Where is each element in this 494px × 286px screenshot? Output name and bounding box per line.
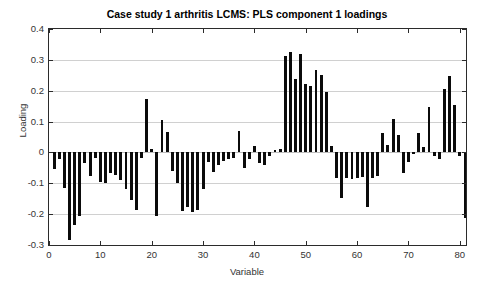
bar xyxy=(202,152,205,189)
x-tick-mark xyxy=(460,241,461,245)
x-tick-mark xyxy=(49,241,50,245)
x-tick-mark xyxy=(254,241,255,245)
bar xyxy=(443,89,446,152)
bar xyxy=(83,152,86,163)
y-tick-mark xyxy=(49,60,53,61)
bar xyxy=(309,86,312,152)
bar xyxy=(397,135,400,152)
x-tick-label: 20 xyxy=(132,250,172,260)
y-tick-mark-right xyxy=(462,152,466,153)
x-tick-mark xyxy=(357,241,358,245)
bar xyxy=(376,152,379,176)
bar xyxy=(412,152,415,154)
x-tick-mark-top xyxy=(460,29,461,33)
bar xyxy=(243,152,246,167)
y-tick-mark-right xyxy=(462,122,466,123)
bar xyxy=(53,152,56,169)
bar xyxy=(268,152,271,156)
bar xyxy=(284,56,287,152)
bar xyxy=(171,152,174,171)
bar xyxy=(263,152,266,165)
bar xyxy=(140,152,143,158)
bar xyxy=(279,149,282,153)
bar xyxy=(135,152,138,209)
bar xyxy=(238,131,241,152)
bar-series xyxy=(49,29,466,245)
x-tick-mark-top xyxy=(49,29,50,33)
bar xyxy=(356,152,359,177)
bar xyxy=(181,152,184,211)
x-tick-label: 70 xyxy=(388,250,428,260)
y-tick-label: -0.1 xyxy=(4,178,44,188)
x-tick-mark xyxy=(306,241,307,245)
x-tick-label: 50 xyxy=(286,250,326,260)
bar xyxy=(381,133,384,152)
bar xyxy=(315,70,318,153)
y-tick-label: 0.2 xyxy=(4,86,44,96)
bar xyxy=(402,152,405,173)
x-tick-mark xyxy=(100,241,101,245)
y-tick-label: 0.3 xyxy=(4,55,44,65)
bar xyxy=(258,152,261,163)
bar xyxy=(422,147,425,153)
x-tick-label: 0 xyxy=(29,250,69,260)
x-tick-mark-top xyxy=(408,29,409,33)
bar xyxy=(125,152,128,189)
y-tick-mark xyxy=(49,183,53,184)
bar xyxy=(345,152,348,177)
bar xyxy=(212,152,215,171)
bar xyxy=(191,152,194,211)
y-tick-label: -0.2 xyxy=(4,209,44,219)
bar xyxy=(99,152,102,181)
bar xyxy=(78,152,81,215)
x-tick-label: 30 xyxy=(183,250,223,260)
x-tick-label: 60 xyxy=(337,250,377,260)
x-tick-mark-top xyxy=(357,29,358,33)
bar xyxy=(289,52,292,152)
bar xyxy=(114,152,117,174)
x-tick-mark-top xyxy=(203,29,204,33)
bar xyxy=(351,152,354,178)
chart-figure: Case study 1 arthritis LCMS: PLS compone… xyxy=(0,0,494,286)
x-tick-label: 40 xyxy=(234,250,274,260)
x-tick-mark xyxy=(203,241,204,245)
bar xyxy=(392,119,395,152)
y-tick-mark-right xyxy=(462,214,466,215)
bar xyxy=(335,152,338,177)
y-tick-mark-right xyxy=(462,29,466,30)
x-tick-mark-top xyxy=(100,29,101,33)
y-tick-label: 0 xyxy=(4,147,44,157)
bar xyxy=(453,105,456,153)
bar xyxy=(253,146,256,152)
y-tick-mark-right xyxy=(462,60,466,61)
bar xyxy=(166,132,169,152)
x-tick-mark-top xyxy=(152,29,153,33)
bar xyxy=(320,75,323,153)
bar xyxy=(361,152,364,177)
bar xyxy=(68,152,71,240)
chart-title: Case study 1 arthritis LCMS: PLS compone… xyxy=(0,8,494,20)
bar xyxy=(428,107,431,153)
bar xyxy=(58,152,61,159)
x-tick-label: 80 xyxy=(440,250,480,260)
bar xyxy=(161,120,164,152)
bar xyxy=(458,152,461,156)
bar xyxy=(89,152,92,175)
y-tick-mark-right xyxy=(462,91,466,92)
bar xyxy=(330,146,333,153)
bar xyxy=(464,152,467,217)
bar xyxy=(130,152,133,200)
bar xyxy=(155,152,158,215)
y-tick-mark-right xyxy=(462,183,466,184)
bar xyxy=(433,152,436,155)
bar xyxy=(109,152,112,173)
bar xyxy=(94,152,97,158)
bar xyxy=(150,149,153,152)
bar xyxy=(407,152,410,161)
x-axis-title: Variable xyxy=(0,266,494,277)
bar xyxy=(417,133,420,152)
bar xyxy=(63,152,66,187)
bar xyxy=(438,152,441,158)
y-tick-mark xyxy=(49,91,53,92)
bar xyxy=(196,152,199,209)
